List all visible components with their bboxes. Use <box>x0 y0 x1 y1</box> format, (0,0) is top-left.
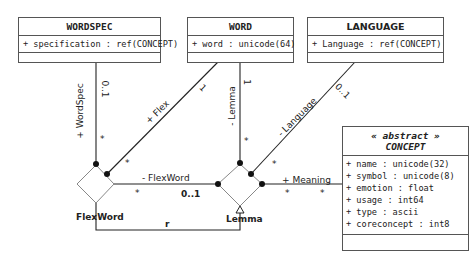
class-operations <box>19 53 160 59</box>
class-concept[interactable]: « abstract » CONCEPT + name : unicode(32… <box>342 126 469 251</box>
class-attribute: + Language : ref(CONCEPT) <box>308 36 443 53</box>
endpoint-dot-icon <box>104 171 110 177</box>
class-stereotype: « abstract » <box>343 130 468 141</box>
class-operations <box>343 235 468 241</box>
role-label-lemma: - Lemma <box>227 86 237 126</box>
association-name-lemma: Lemma <box>226 214 263 224</box>
class-header: « abstract » CONCEPT <box>343 127 468 156</box>
role-label-flexword: - FlexWord <box>142 173 190 183</box>
multiplicity-flex-bottom: * <box>125 158 130 168</box>
lemma-association-diamond[interactable] <box>218 164 262 206</box>
class-name: WORDSPEC <box>19 18 160 36</box>
class-word[interactable]: WORD + word : unicode(64) <box>187 17 294 63</box>
class-operations <box>188 53 293 59</box>
class-attribute: + usage : int64 <box>346 194 465 206</box>
flexword-association-diamond[interactable] <box>77 165 114 203</box>
role-label-meaning: + Meaning <box>282 175 331 185</box>
multiplicity-meaning-right: * <box>320 188 325 198</box>
class-name: WORD <box>188 18 293 36</box>
endpoint-dot-icon <box>93 161 99 167</box>
class-attribute: + symbol : unicode(8) <box>346 170 465 182</box>
multiplicity-language-bottom: * <box>272 159 277 169</box>
endpoint-dot-icon <box>259 181 265 187</box>
multiplicity-flexword-right: 0..1 <box>181 189 200 199</box>
multiplicity-flexword-left: * <box>135 188 140 198</box>
class-name: LANGUAGE <box>308 18 443 36</box>
endpoint-dot-icon <box>215 181 221 187</box>
class-attribute: + word : unicode(64) <box>188 36 293 53</box>
flex-association-line <box>107 62 218 174</box>
class-name: CONCEPT <box>343 141 468 152</box>
multiplicity-meaning-left: * <box>285 188 290 198</box>
association-name-flexword: FlexWord <box>76 212 124 222</box>
multiplicity-wordspec-top: 0..1 <box>100 80 110 97</box>
class-attribute: + coreconcept : int8 <box>346 218 465 230</box>
class-wordspec[interactable]: WORDSPEC + specification : ref(CONCEPT) <box>18 17 161 63</box>
class-attribute: + type : ascii <box>346 206 465 218</box>
class-attributes: + name : unicode(32) + symbol : unicode(… <box>343 156 468 235</box>
class-language[interactable]: LANGUAGE + Language : ref(CONCEPT) <box>307 17 444 63</box>
endpoint-dot-icon <box>248 171 254 177</box>
endpoint-dot-icon <box>237 160 243 166</box>
multiplicity-wordspec-bottom: * <box>100 134 105 144</box>
link-label-r: r <box>165 219 169 229</box>
multiplicity-lemma-bottom: * <box>244 136 249 146</box>
class-attribute: + emotion : float <box>346 182 465 194</box>
multiplicity-lemma-top: 1 <box>242 79 252 85</box>
class-attribute: + name : unicode(32) <box>346 158 465 170</box>
class-operations <box>308 53 443 59</box>
triangle-arrow-icon <box>236 206 244 213</box>
class-attribute: + specification : ref(CONCEPT) <box>19 36 160 53</box>
role-label-wordspec: + WordSpec <box>75 83 85 138</box>
